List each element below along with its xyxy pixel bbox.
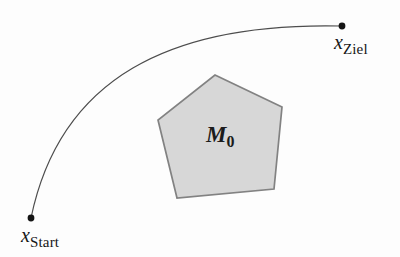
goal-label-subscript: Ziel bbox=[343, 41, 368, 57]
obstacle-label-variable: M bbox=[206, 122, 226, 147]
start-label-variable: x bbox=[21, 224, 30, 246]
start-label-subscript: Start bbox=[30, 234, 59, 250]
path-planning-diagram: xStart xZiel M0 bbox=[0, 0, 400, 257]
goal-point-dot bbox=[339, 23, 346, 30]
goal-point-label: xZiel bbox=[334, 32, 368, 57]
start-point-label: xStart bbox=[21, 225, 59, 250]
obstacle-label-subscript: 0 bbox=[226, 133, 234, 150]
obstacle-label: M0 bbox=[206, 123, 234, 150]
goal-label-variable: x bbox=[334, 31, 343, 53]
start-point-dot bbox=[28, 215, 35, 222]
